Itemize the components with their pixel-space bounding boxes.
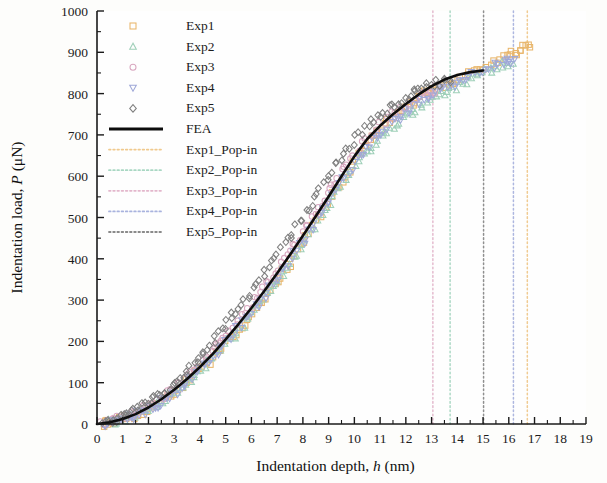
legend-label: Exp4 (186, 80, 215, 95)
x-tick-label: 0 (94, 431, 101, 446)
plot-area-background (97, 11, 586, 424)
x-tick-label: 1 (119, 431, 126, 446)
x-tick-label: 10 (348, 431, 362, 446)
y-tick-label: 0 (81, 417, 88, 432)
x-tick-label: 5 (222, 431, 229, 446)
x-tick-label: 11 (374, 431, 387, 446)
legend-label: Exp3 (186, 59, 215, 74)
x-tick-label: 16 (502, 431, 516, 446)
x-tick-label: 12 (399, 431, 413, 446)
x-tick-label: 15 (476, 431, 490, 446)
y-tick-label: 800 (68, 87, 89, 102)
x-tick-label: 13 (425, 431, 439, 446)
plot-bg (97, 11, 586, 424)
y-tick-label: 600 (68, 169, 89, 184)
x-tick-label: 8 (300, 431, 307, 446)
legend-label: Exp3_Pop-in (186, 183, 258, 198)
x-tick-label: 14 (451, 431, 465, 446)
legend-label: Exp2 (186, 39, 215, 54)
y-tick-label: 700 (68, 128, 89, 143)
x-tick-label: 7 (274, 431, 281, 446)
y-tick-label: 100 (68, 376, 89, 391)
y-tick-label: 300 (68, 293, 89, 308)
y-tick-label: 500 (68, 211, 89, 226)
x-tick-label: 19 (579, 431, 593, 446)
y-tick-label: 900 (68, 45, 89, 60)
legend-label: Exp1_Pop-in (186, 142, 258, 157)
x-tick-label: 6 (248, 431, 255, 446)
x-tick-label: 2 (145, 431, 152, 446)
chart-figure: 0123456789101112131415161718190100200300… (0, 0, 607, 483)
x-axis-title: Indentation depth, h (nm) (256, 457, 414, 475)
legend-label: Exp4_Pop-in (186, 203, 258, 218)
indentation-load-depth-chart: 0123456789101112131415161718190100200300… (0, 0, 607, 483)
x-tick-label: 17 (528, 431, 542, 446)
y-tick-label: 400 (68, 252, 89, 267)
y-tick-label: 200 (68, 334, 89, 349)
x-tick-label: 18 (554, 431, 568, 446)
legend-label: Exp5 (186, 100, 215, 115)
y-axis-title: Indentation load, P (μN) (8, 141, 26, 293)
y-tick-label: 1000 (61, 4, 88, 19)
legend-label: Exp1 (186, 18, 215, 33)
legend-label: FEA (186, 121, 212, 136)
x-tick-label: 3 (171, 431, 178, 446)
legend-label: Exp5_Pop-in (186, 224, 258, 239)
x-tick-label: 9 (325, 431, 332, 446)
legend-label: Exp2_Pop-in (186, 162, 258, 177)
x-tick-label: 4 (197, 431, 204, 446)
